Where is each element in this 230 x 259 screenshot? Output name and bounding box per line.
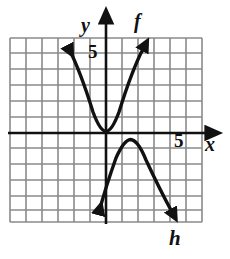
curve-label-f: f	[134, 11, 141, 31]
x-axis-tick-label-5: 5	[174, 131, 184, 150]
graph-figure: y x 5 5 f h	[0, 0, 230, 259]
curve-label-h: h	[169, 228, 181, 249]
y-axis-label: y	[81, 15, 90, 35]
x-axis-label: x	[205, 134, 215, 154]
y-axis-tick-label-5: 5	[88, 42, 98, 61]
coordinate-plot	[0, 0, 230, 259]
